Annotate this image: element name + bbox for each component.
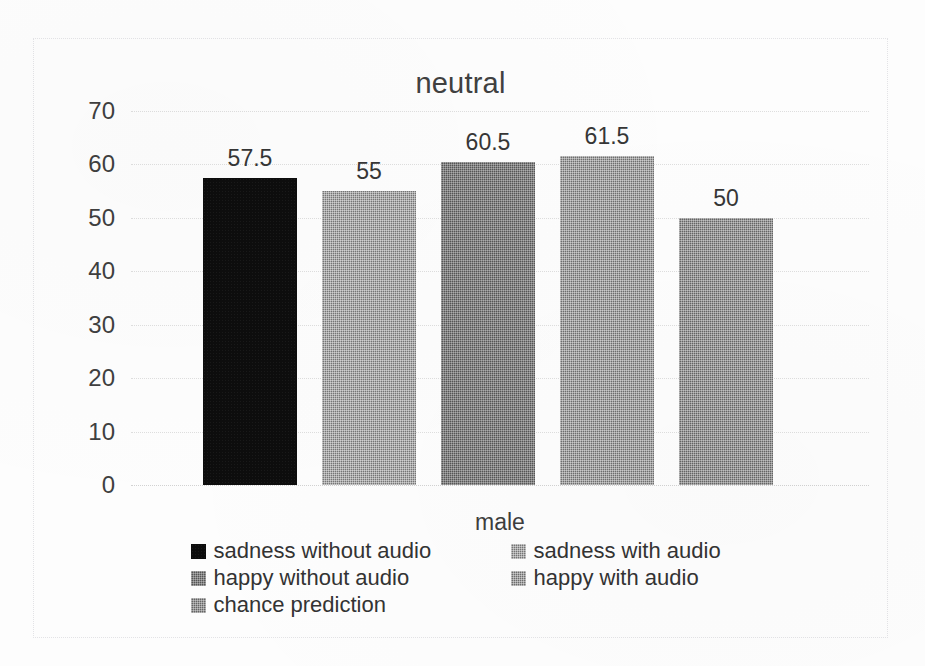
bar[interactable] <box>441 162 535 485</box>
y-tick-label-40: 40 <box>88 259 115 283</box>
y-tick-label-60: 60 <box>88 152 115 176</box>
legend-swatch-icon <box>511 571 526 586</box>
legend-row: chance prediction <box>191 593 731 617</box>
bar-slot: 50 <box>679 111 773 485</box>
chart-legend: sadness without audiosadness with audioh… <box>34 539 887 621</box>
scanned-page: neutral 706050403020100 57.55560.561.550… <box>0 0 925 666</box>
legend-item[interactable]: happy without audio <box>191 566 511 590</box>
y-tick-label-20: 20 <box>88 366 115 390</box>
bar-group: 57.55560.561.550 <box>131 111 869 485</box>
bar[interactable] <box>203 178 297 485</box>
y-tick-label-0: 0 <box>102 473 115 497</box>
legend-row: happy without audiohappy with audio <box>191 566 731 590</box>
legend-item[interactable]: chance prediction <box>191 593 511 617</box>
bar-value-label: 55 <box>322 160 416 183</box>
bar-value-label: 61.5 <box>560 125 654 148</box>
y-tick-label-30: 30 <box>88 313 115 337</box>
gridline-0 <box>131 485 869 486</box>
bar[interactable] <box>322 191 416 485</box>
bar-slot: 55 <box>322 111 416 485</box>
y-tick-label-70: 70 <box>88 99 115 123</box>
legend-label: happy without audio <box>214 566 410 590</box>
chart-title: neutral <box>34 67 887 100</box>
legend-swatch-icon <box>191 544 206 559</box>
bar-slot: 60.5 <box>441 111 535 485</box>
legend-swatch-icon <box>191 598 206 613</box>
y-tick-label-50: 50 <box>88 206 115 230</box>
legend-label: sadness without audio <box>214 539 432 563</box>
bar-value-label: 57.5 <box>203 147 297 170</box>
legend-swatch-icon <box>191 571 206 586</box>
legend-item[interactable]: happy with audio <box>511 566 731 590</box>
bar-value-label: 50 <box>679 187 773 210</box>
plot-area: 706050403020100 57.55560.561.550 <box>131 111 869 485</box>
bar-slot: 57.5 <box>203 111 297 485</box>
bar[interactable] <box>679 218 773 485</box>
legend-label: chance prediction <box>214 593 386 617</box>
chart-frame: neutral 706050403020100 57.55560.561.550… <box>33 38 888 638</box>
y-tick-label-10: 10 <box>88 420 115 444</box>
bar[interactable] <box>560 156 654 485</box>
legend-item[interactable]: sadness with audio <box>511 539 731 563</box>
legend-row: sadness without audiosadness with audio <box>191 539 731 563</box>
bar-value-label: 60.5 <box>441 131 535 154</box>
legend-label: happy with audio <box>534 566 699 590</box>
legend-label: sadness with audio <box>534 539 721 563</box>
legend-swatch-icon <box>511 544 526 559</box>
x-axis-label: male <box>131 509 869 536</box>
bar-slot: 61.5 <box>560 111 654 485</box>
legend-item[interactable]: sadness without audio <box>191 539 511 563</box>
